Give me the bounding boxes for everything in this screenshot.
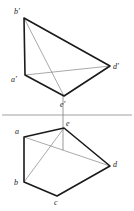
vertex-label-c: c — [54, 199, 58, 207]
vertex-label-e: e — [66, 120, 70, 128]
vertex-label-a: a — [15, 128, 19, 136]
vertex-label-d: d — [113, 161, 117, 169]
vertex-label-e-prime: e' — [60, 101, 65, 109]
front-view-outline — [24, 18, 110, 96]
vertex-label-b-prime: b' — [14, 8, 20, 16]
top-view-outline — [24, 128, 110, 196]
projection-figure: b' a' d' e' a b c d e — [0, 0, 134, 211]
vertex-label-d-prime: d' — [113, 63, 119, 71]
edge-a-d — [24, 137, 110, 166]
vertex-label-b: b — [14, 179, 18, 187]
vertex-label-a-prime: a' — [11, 76, 17, 84]
thin-construction-edges-front — [24, 18, 110, 96]
figure-canvas — [0, 0, 134, 211]
